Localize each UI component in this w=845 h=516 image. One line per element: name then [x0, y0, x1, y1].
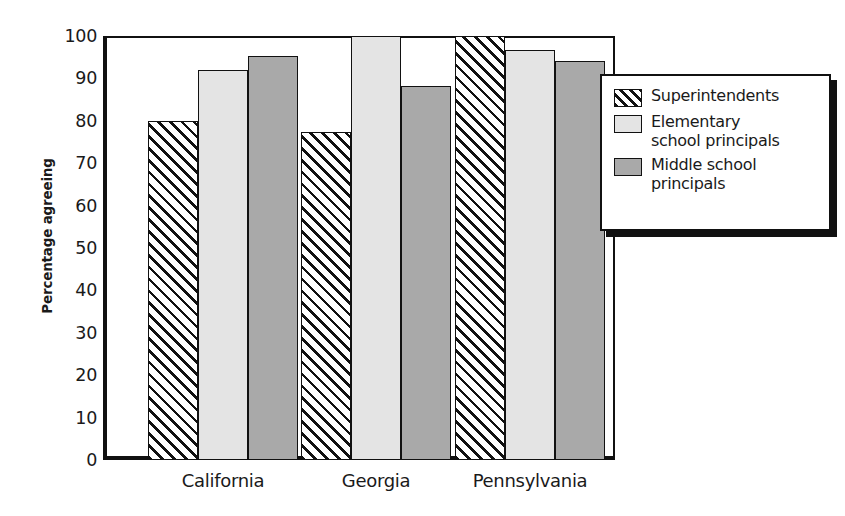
x-axis-label-california: California: [182, 470, 264, 491]
bar-pennsylvania-middle-school-principals: [555, 61, 605, 460]
y-axis-tick-label: 50: [53, 238, 97, 258]
bar-georgia-middle-school-principals: [401, 86, 451, 460]
legend-item-label: Superintendents: [651, 86, 779, 105]
bar-california-middle-school-principals: [248, 56, 298, 460]
chart-legend: SuperintendentsElementary school princip…: [600, 74, 831, 231]
bar-georgia-superintendents: [301, 132, 351, 460]
y-axis-tick-label: 70: [53, 153, 97, 173]
legend-swatch-icon: [614, 158, 642, 176]
y-axis-tick-label: 10: [53, 408, 97, 428]
legend-swatch-icon: [614, 89, 642, 107]
y-axis-tick-labels: 0102030405060708090100: [47, 0, 97, 516]
y-axis-tick-label: 90: [53, 68, 97, 88]
x-axis-label-georgia: Georgia: [342, 470, 410, 491]
bars-layer: [103, 36, 615, 460]
bar-pennsylvania-superintendents: [455, 36, 505, 460]
legend-item-label: Middle school principals: [651, 155, 756, 193]
legend-item: Middle school principals: [614, 155, 829, 193]
bar-georgia-elementary-school-principals: [351, 36, 401, 460]
y-axis-tick-label: 80: [53, 111, 97, 131]
bar-chart: Percentage agreeing 01020304050607080901…: [0, 0, 845, 516]
y-axis-tick-label: 60: [53, 196, 97, 216]
y-axis-tick-label: 30: [53, 323, 97, 343]
legend-item: Elementary school principals: [614, 112, 829, 150]
legend-item-label: Elementary school principals: [651, 112, 780, 150]
bar-pennsylvania-elementary-school-principals: [505, 50, 555, 460]
y-axis-tick-label: 20: [53, 365, 97, 385]
y-axis-tick-label: 40: [53, 280, 97, 300]
legend-item: Superintendents: [614, 86, 829, 107]
x-axis-label-pennsylvania: Pennsylvania: [473, 470, 588, 491]
y-axis-tick-label: 100: [53, 26, 97, 46]
y-axis-tick-label: 0: [53, 450, 97, 470]
bar-california-superintendents: [148, 121, 198, 460]
legend-swatch-icon: [614, 115, 642, 133]
bar-california-elementary-school-principals: [198, 70, 248, 460]
